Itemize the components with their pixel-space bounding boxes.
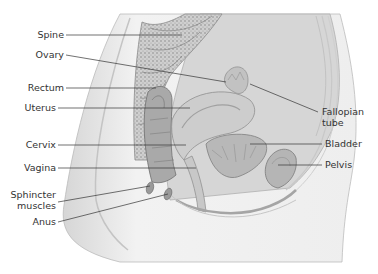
label-vagina: Vagina <box>24 162 56 173</box>
label-bladder: Bladder <box>325 138 362 149</box>
label-spine: Spine <box>37 29 64 40</box>
label-fallopian-line2: tube <box>322 117 364 128</box>
label-fallopian-tube: Fallopian tube <box>322 106 364 128</box>
label-pelvis: Pelvis <box>325 159 352 170</box>
label-rectum: Rectum <box>28 82 64 93</box>
label-ovary: Ovary <box>36 49 64 60</box>
label-uterus: Uterus <box>25 102 56 113</box>
anatomy-diagram <box>0 0 378 274</box>
label-sphincter-line1: Sphincter <box>11 189 56 200</box>
label-fallopian-line1: Fallopian <box>322 106 364 117</box>
label-anus: Anus <box>33 216 57 227</box>
label-sphincter-line2: muscles <box>11 200 56 211</box>
label-cervix: Cervix <box>26 139 56 150</box>
label-sphincter-muscles: Sphincter muscles <box>11 189 56 211</box>
